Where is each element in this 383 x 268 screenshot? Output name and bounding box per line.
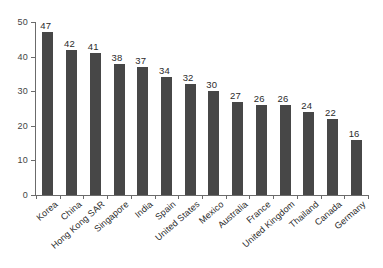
bar-value-label: 41: [88, 41, 99, 52]
bar: [208, 91, 219, 195]
bar-value-label: 34: [159, 65, 170, 76]
y-axis-tick: [31, 160, 35, 161]
y-axis-tick-label: 10: [0, 155, 28, 165]
bar: [280, 105, 291, 195]
y-axis-tick: [31, 22, 35, 23]
y-axis-tick: [31, 195, 35, 196]
bar: [303, 112, 314, 195]
x-axis-tick: [202, 195, 203, 199]
y-axis-tick: [31, 91, 35, 92]
bar: [351, 140, 362, 195]
y-axis-tick-label: 40: [0, 52, 28, 62]
bar-chart: 4742413837343230272626242216 01020304050…: [0, 0, 383, 268]
bar-value-label: 27: [230, 90, 241, 101]
y-axis-tick-label: 50: [0, 17, 28, 27]
bar: [327, 119, 338, 195]
bar-value-label: 26: [278, 93, 289, 104]
y-axis-tick: [31, 57, 35, 58]
bar-value-label: 30: [206, 79, 217, 90]
bar: [161, 77, 172, 195]
y-axis-tick-label: 20: [0, 121, 28, 131]
bar-value-label: 24: [301, 100, 312, 111]
x-axis-tick: [36, 195, 37, 199]
bar-value-label: 42: [64, 38, 75, 49]
x-axis-tick: [297, 195, 298, 199]
x-axis-tick: [107, 195, 108, 199]
bar: [185, 84, 196, 195]
bar-value-label: 26: [254, 93, 265, 104]
x-axis-tick: [344, 195, 345, 199]
x-axis-tick: [60, 195, 61, 199]
x-axis-tick: [178, 195, 179, 199]
x-axis-tick: [249, 195, 250, 199]
y-axis-tick-label: 30: [0, 86, 28, 96]
x-axis-tick: [131, 195, 132, 199]
bar: [256, 105, 267, 195]
bar-value-label: 16: [349, 128, 360, 139]
x-axis-tick: [83, 195, 84, 199]
x-axis-tick: [368, 195, 369, 199]
x-axis-tick: [155, 195, 156, 199]
y-axis-tick: [31, 126, 35, 127]
bar-value-label: 22: [325, 107, 336, 118]
bar: [114, 64, 125, 195]
x-axis-tick: [226, 195, 227, 199]
y-axis-tick-label: 0: [0, 190, 28, 200]
bar-value-label: 37: [135, 55, 146, 66]
bar-value-label: 32: [183, 72, 194, 83]
bar: [42, 32, 53, 195]
bar: [90, 53, 101, 195]
x-axis-tick: [273, 195, 274, 199]
bar: [137, 67, 148, 195]
x-axis-tick: [321, 195, 322, 199]
bar-value-label: 47: [40, 20, 51, 31]
plot-area: 4742413837343230272626242216: [36, 22, 368, 195]
bar: [232, 102, 243, 195]
bar: [66, 50, 77, 195]
bar-value-label: 38: [112, 52, 123, 63]
